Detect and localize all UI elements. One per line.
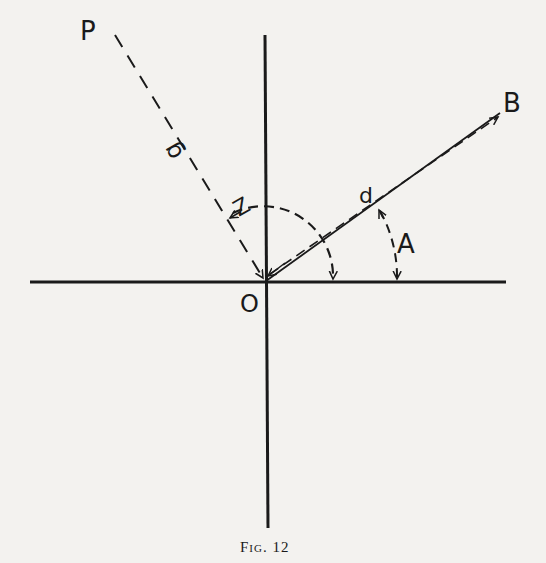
label-d: d — [359, 183, 373, 208]
label-g: g — [157, 138, 189, 165]
figure-12-diagram: P B O A Z d g Fig. 12 — [0, 0, 546, 563]
vector-PO-dashed — [115, 35, 263, 278]
label-O: O — [240, 290, 259, 318]
angle-A-arc — [380, 211, 397, 279]
label-B: B — [503, 88, 521, 118]
label-P: P — [80, 16, 96, 46]
label-A: A — [397, 229, 415, 259]
figure-caption: Fig. 12 — [240, 539, 289, 555]
